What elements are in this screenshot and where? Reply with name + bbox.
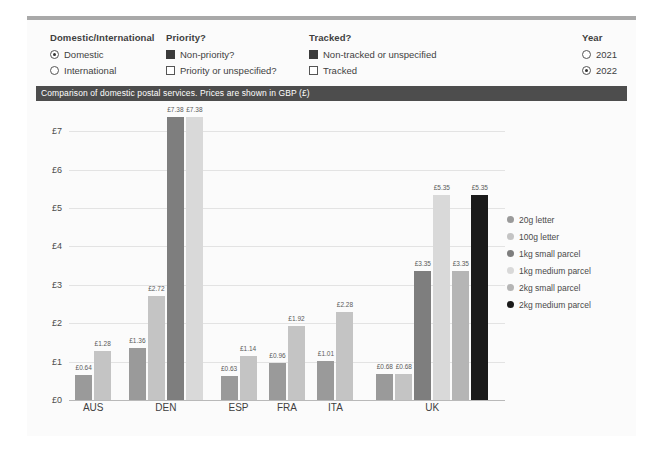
chart-y-axis: £0£1£2£3£4£5£6£7: [36, 112, 66, 400]
bar[interactable]: £2.72: [148, 296, 165, 400]
bar-fill: [167, 117, 184, 400]
legend-label: 100g letter: [519, 232, 559, 242]
bar-value-label: £1.92: [288, 315, 304, 322]
legend-item[interactable]: 2kg medium parcel: [507, 296, 619, 313]
bar-group: £1.01£2.28: [311, 112, 359, 400]
y-axis-tick-label: £4: [52, 241, 62, 251]
bar[interactable]: £0.96: [269, 363, 286, 400]
bar-value-label: £3.35: [415, 260, 431, 267]
bar[interactable]: £1.92: [288, 326, 305, 400]
bar[interactable]: £2.28: [336, 312, 353, 400]
bar-group: £0.64£1.28: [69, 112, 117, 400]
bar-fill: [336, 312, 353, 400]
bar-value-label: £1.14: [240, 345, 256, 352]
filter-option-year-2021[interactable]: 2021: [582, 47, 617, 62]
filter-option-priority-or-unspecified[interactable]: Priority or unspecified?: [166, 63, 277, 78]
bar-fill: [148, 296, 165, 400]
bar-value-label: £5.35: [472, 184, 488, 191]
gridline: [69, 400, 505, 401]
bar-value-label: £0.96: [269, 352, 285, 359]
legend-swatch-icon: [507, 216, 514, 223]
bar-fill: [317, 361, 334, 400]
bar-value-label: £7.38: [167, 106, 183, 113]
chart-bar-groups: £0.64£1.28£1.36£2.72£7.38£7.38£0.63£1.14…: [69, 112, 505, 400]
filter-option-label: Tracked: [323, 63, 357, 78]
filter-option-year-2022[interactable]: 2022: [582, 63, 617, 78]
bar-fill: [75, 375, 92, 400]
filter-option-label: 2021: [596, 47, 617, 62]
filter-option-non-tracked[interactable]: Non-tracked or unspecified: [309, 47, 437, 62]
legend-label: 1kg small parcel: [519, 249, 580, 259]
bar[interactable]: £7.38: [186, 117, 203, 400]
legend-swatch-icon: [507, 250, 514, 257]
bar-value-label: £0.64: [76, 364, 92, 371]
filter-title: Domestic/International: [50, 32, 155, 43]
radio-icon-international[interactable]: [50, 66, 59, 75]
y-axis-tick-label: £7: [52, 126, 62, 136]
bar-value-label: £0.68: [396, 363, 412, 370]
checkbox-icon-priority-or-unspecified[interactable]: [166, 66, 175, 75]
report-panel: Domestic/International Domestic Internat…: [27, 16, 636, 436]
y-axis-tick-label: £3: [52, 280, 62, 290]
filter-option-label: International: [64, 63, 116, 78]
bar[interactable]: £1.14: [240, 356, 257, 400]
bar-fill: [414, 271, 431, 400]
bar[interactable]: £7.38: [167, 117, 184, 400]
filter-option-international[interactable]: International: [50, 63, 155, 78]
bar-fill: [221, 376, 238, 400]
legend-item[interactable]: 1kg medium parcel: [507, 262, 619, 279]
legend-label: 1kg medium parcel: [519, 266, 591, 276]
bar-fill: [376, 374, 393, 400]
radio-icon-year-2021[interactable]: [582, 50, 591, 59]
bar[interactable]: £5.35: [471, 195, 488, 400]
bar-value-label: £3.35: [453, 260, 469, 267]
bar-group: £1.36£2.72£7.38£7.38: [117, 112, 214, 400]
bar-value-label: £2.72: [148, 285, 164, 292]
legend-label: 2kg medium parcel: [519, 300, 591, 310]
legend-item[interactable]: 1kg small parcel: [507, 245, 619, 262]
bar[interactable]: £1.36: [129, 348, 146, 400]
bar[interactable]: £1.01: [317, 361, 334, 400]
filter-option-tracked[interactable]: Tracked: [309, 63, 437, 78]
legend-item[interactable]: 2kg small parcel: [507, 279, 619, 296]
legend-label: 2kg small parcel: [519, 283, 580, 293]
filter-option-label: Priority or unspecified?: [180, 63, 277, 78]
chart-card: Comparison of domestic postal services. …: [36, 86, 627, 430]
y-axis-tick-label: £5: [52, 203, 62, 213]
filter-group-year: Year 2021 2022: [582, 32, 617, 79]
bar-fill: [129, 348, 146, 400]
bar[interactable]: £3.35: [414, 271, 431, 400]
y-axis-tick-label: £2: [52, 318, 62, 328]
bar-fill: [433, 195, 450, 400]
bar[interactable]: £3.35: [452, 271, 469, 400]
bar[interactable]: £5.35: [433, 195, 450, 400]
checkbox-icon-non-priority[interactable]: [166, 50, 175, 59]
filter-option-label: Non-priority?: [180, 47, 234, 62]
bar[interactable]: £0.64: [75, 375, 92, 400]
filter-title: Year: [582, 32, 617, 43]
bar-fill: [288, 326, 305, 400]
filter-option-domestic[interactable]: Domestic: [50, 47, 155, 62]
chart-title: Comparison of domestic postal services. …: [36, 86, 627, 101]
legend-swatch-icon: [507, 301, 514, 308]
bar[interactable]: £0.63: [221, 376, 238, 400]
filter-option-label: 2022: [596, 63, 617, 78]
checkbox-icon-tracked[interactable]: [309, 66, 318, 75]
bar-group: £0.96£1.92: [263, 112, 311, 400]
radio-icon-year-2022[interactable]: [582, 66, 591, 75]
bar-fill: [452, 271, 469, 400]
bar-value-label: £1.36: [129, 337, 145, 344]
x-axis-tick-label: AUS: [69, 402, 117, 422]
bar[interactable]: £1.28: [94, 351, 111, 400]
bar[interactable]: £0.68: [395, 374, 412, 400]
bar-fill: [94, 351, 111, 400]
legend-label: 20g letter: [519, 215, 554, 225]
legend-swatch-icon: [507, 233, 514, 240]
legend-swatch-icon: [507, 267, 514, 274]
legend-item[interactable]: 100g letter: [507, 228, 619, 245]
checkbox-icon-non-tracked[interactable]: [309, 50, 318, 59]
radio-icon-domestic[interactable]: [50, 50, 59, 59]
filter-option-non-priority[interactable]: Non-priority?: [166, 47, 277, 62]
legend-item[interactable]: 20g letter: [507, 211, 619, 228]
bar[interactable]: £0.68: [376, 374, 393, 400]
